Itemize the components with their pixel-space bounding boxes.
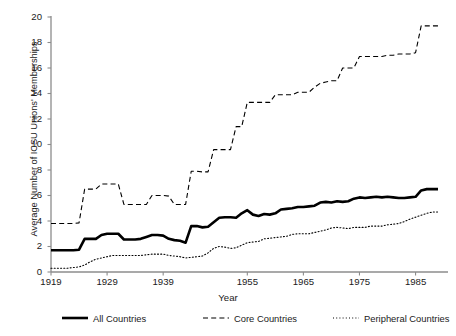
legend-label-all-countries: All Countries [93,313,146,324]
legend-swatch-solid [62,313,88,323]
legend-item-peripheral-countries: Peripheral Countries [333,311,449,325]
legend-item-all-countries: All Countries [62,311,146,325]
chart-legend: All Countries Core Countries Peripheral … [0,311,456,327]
legend-swatch-dashed [203,313,229,323]
legend-item-core-countries: Core Countries [203,311,297,325]
series-line-core-countries [51,26,438,224]
chart-figure: Average Number of ICSU Unions' Membershi… [0,0,456,336]
legend-swatch-dotted [333,313,359,323]
series-line-all-countries [51,189,438,250]
plot-area [0,0,456,336]
legend-label-peripheral-countries: Peripheral Countries [364,313,449,324]
series-line-peripheral-countries [51,212,438,268]
legend-label-core-countries: Core Countries [234,313,297,324]
